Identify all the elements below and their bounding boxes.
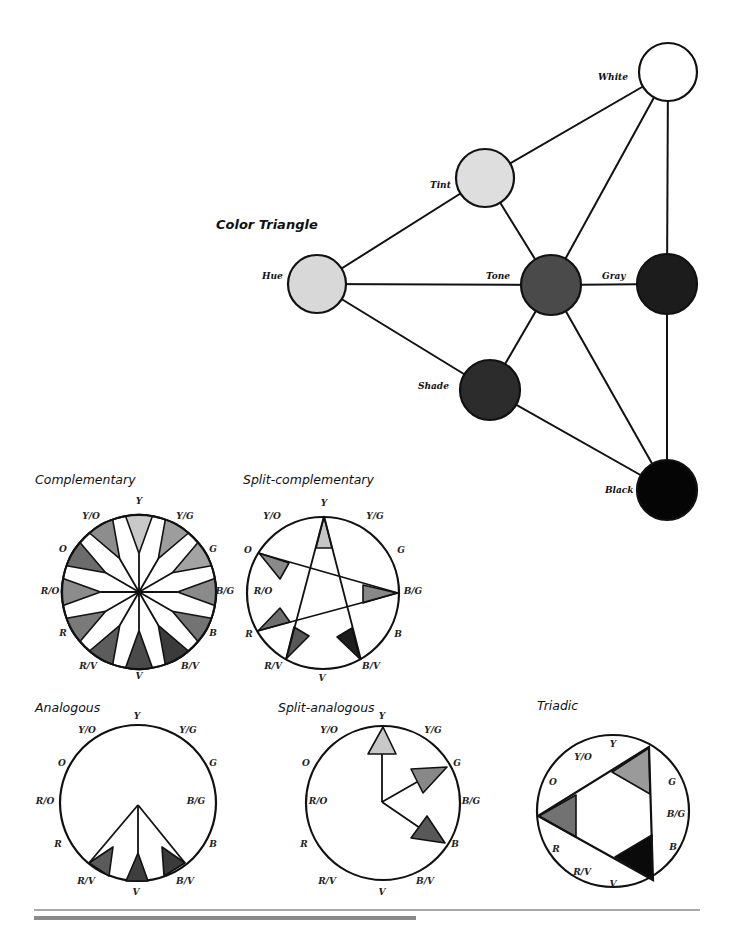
hue-label-b-g: B/G xyxy=(666,809,686,819)
hue-label-b-g: B/G xyxy=(403,586,423,596)
hue-label-y-g: Y/G xyxy=(366,511,384,521)
hue-label-g: G xyxy=(453,758,461,768)
hue-label-y: Y xyxy=(321,498,329,508)
color-theory-page: WhiteTintHueToneGrayShadeBlack Color Tri… xyxy=(0,0,735,925)
hue-label-o: O xyxy=(59,544,67,554)
hue-label-v: V xyxy=(319,673,327,683)
hue-label-r: R xyxy=(58,628,67,638)
hue-label-r-o: R/O xyxy=(40,586,60,596)
hue-label-o: O xyxy=(244,545,252,555)
node-shade-circle xyxy=(460,360,520,420)
edge-hue-tone xyxy=(317,284,551,285)
hue-label-v: V xyxy=(133,887,141,897)
split-analogous-wheel: Split-analogousYY/OY/GOGR/OB/GRBR/VB/VV xyxy=(278,700,481,897)
hue-label-g: G xyxy=(209,544,217,554)
hue-label-r: R xyxy=(53,839,62,849)
hue-label-o: O xyxy=(549,777,557,787)
node-gray-circle xyxy=(637,254,697,314)
color-triangle-nodes: WhiteTintHueToneGrayShadeBlack xyxy=(261,43,697,520)
color-triangle-title: Color Triangle xyxy=(216,217,318,232)
hue-label-y-o: Y/O xyxy=(263,511,281,521)
complementary-wheel: ComplementaryYY/GGB/GBB/VVR/VRR/OOY/O xyxy=(35,472,235,681)
color-diagram-canvas: WhiteTintHueToneGrayShadeBlack Color Tri… xyxy=(0,0,735,925)
hue-label-y-o: Y/O xyxy=(82,511,100,521)
hue-label-v: V xyxy=(610,879,618,889)
hue-label-b-g: B/G xyxy=(461,796,481,806)
analogous-wheel: AnalogousYY/OY/GOGR/OB/GRBR/VB/VV xyxy=(34,700,217,897)
hue-label-y-o: Y/O xyxy=(78,725,96,735)
hue-label-r-v: R/V xyxy=(78,661,98,671)
hue-label-b: B xyxy=(450,839,459,849)
hue-label-g: G xyxy=(397,545,405,555)
hue-label-b-v: B/V xyxy=(361,661,381,671)
node-gray-label: Gray xyxy=(602,271,626,281)
hue-label-b-g: B/G xyxy=(186,796,206,806)
analogous-title: Analogous xyxy=(34,700,101,715)
hue-label-b: B xyxy=(393,629,402,639)
node-black-label: Black xyxy=(604,485,634,495)
hue-label-r: R xyxy=(299,839,308,849)
hue-label-v: V xyxy=(379,887,387,897)
hue-label-r-o: R/O xyxy=(35,796,55,806)
hue-label-g: G xyxy=(209,758,217,768)
footer-bar xyxy=(34,916,416,920)
hue-label-r-v: R/V xyxy=(76,876,96,886)
hue-label-y-g: Y/G xyxy=(179,725,197,735)
hue-label-b-g: B/G xyxy=(215,586,235,596)
complementary-title: Complementary xyxy=(35,472,136,487)
hue-label-r: R xyxy=(551,844,560,854)
hue-label-y-o: Y/O xyxy=(574,752,592,762)
triadic-title: Triadic xyxy=(537,698,578,713)
node-tone-label: Tone xyxy=(486,271,510,281)
hue-label-b-v: B/V xyxy=(180,661,200,671)
hue-label-r: R xyxy=(244,629,253,639)
edge-white-gray xyxy=(667,72,668,284)
node-white-label: White xyxy=(598,72,628,82)
split_analogous-title: Split-analogous xyxy=(278,700,375,715)
node-hue-circle xyxy=(288,255,346,313)
node-tint-label: Tint xyxy=(430,180,452,190)
node-white-circle xyxy=(639,43,697,101)
hue-label-b: B xyxy=(668,842,677,852)
node-hue-label: Hue xyxy=(261,271,283,281)
hue-label-o: O xyxy=(302,758,310,768)
hue-label-r-o: R/O xyxy=(308,796,328,806)
edge-white-tone xyxy=(551,72,668,285)
hue-label-b-v: B/V xyxy=(415,876,435,886)
hue-label-v: V xyxy=(136,671,144,681)
color-triangle-edges xyxy=(317,72,668,490)
edge-tone-black xyxy=(551,285,667,490)
node-tone-circle xyxy=(521,255,581,315)
hue-label-y-g: Y/G xyxy=(176,511,194,521)
hue-label-b: B xyxy=(208,839,217,849)
hue-label-r-v: R/V xyxy=(263,661,283,671)
edge-tint-white xyxy=(485,72,668,178)
triadic-wheel: TriadicYY/OOGB/GBRR/VV xyxy=(537,698,689,889)
hue-label-g: G xyxy=(668,777,676,787)
split_complementary-title: Split-complementary xyxy=(243,472,375,487)
hue-label-r-v: R/V xyxy=(317,876,337,886)
split-complementary-wheel: Split-complementaryYY/GGB/GBB/VVR/VRR/OO… xyxy=(243,472,423,683)
center-dot xyxy=(136,589,142,595)
node-shade-label: Shade xyxy=(418,381,449,391)
node-black-circle xyxy=(637,460,697,520)
hue-label-y-o: Y/O xyxy=(320,725,338,735)
node-tint-circle xyxy=(456,149,514,207)
hue-label-o: O xyxy=(58,758,66,768)
hue-label-y-g: Y/G xyxy=(424,725,442,735)
hue-label-r-o: R/O xyxy=(253,586,273,596)
hue-label-y: Y xyxy=(134,711,142,721)
hue-label-b-v: B/V xyxy=(175,876,195,886)
hue-label-b: B xyxy=(208,628,217,638)
hue-label-r-v: R/V xyxy=(572,867,592,877)
hue-label-y: Y xyxy=(379,711,387,721)
hue-label-y: Y xyxy=(136,496,144,506)
